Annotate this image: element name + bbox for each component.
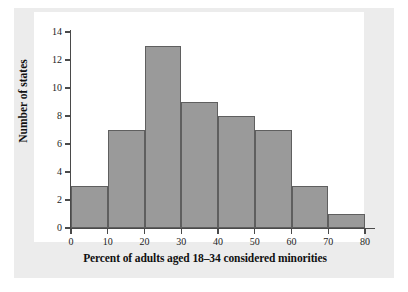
x-axis-tick-label: 20	[132, 236, 158, 247]
y-axis-tick	[65, 31, 70, 32]
y-axis-tick-label: 12	[42, 55, 62, 65]
y-axis-tick-label: 0	[42, 223, 62, 233]
x-axis-tick-label: 0	[58, 236, 84, 247]
x-axis-tick	[107, 229, 108, 234]
x-axis-tick	[181, 229, 182, 234]
x-axis-tick	[217, 229, 218, 234]
y-axis-tick	[65, 87, 70, 88]
y-axis-tick-label: 8	[42, 111, 62, 121]
x-axis-tick	[70, 229, 71, 234]
x-axis-tick-label: 40	[205, 236, 231, 247]
x-axis-tick	[291, 229, 292, 234]
y-axis-title: Number of states	[17, 46, 29, 156]
y-axis-tick	[65, 199, 70, 200]
y-axis-tick	[65, 227, 70, 228]
y-axis-tick-label: 14	[42, 27, 62, 37]
x-axis-tick-label: 70	[315, 236, 341, 247]
x-axis-tick-label: 10	[95, 236, 121, 247]
y-axis-tick-label: 10	[42, 83, 62, 93]
histogram-bar	[255, 130, 292, 228]
x-axis-tick-label: 30	[168, 236, 194, 247]
histogram-bar	[71, 186, 108, 228]
histogram-bar	[108, 130, 145, 228]
y-axis-tick	[65, 143, 70, 144]
x-axis-tick	[144, 229, 145, 234]
x-axis-tick-label: 50	[242, 236, 268, 247]
histogram-bar	[328, 214, 365, 228]
y-axis-tick-label: 2	[42, 195, 62, 205]
x-axis-tick	[328, 229, 329, 234]
histogram-bar	[145, 46, 182, 228]
y-axis-tick	[65, 115, 70, 116]
y-axis-tick-label: 4	[42, 167, 62, 177]
x-axis-tick	[364, 229, 365, 234]
y-axis-tick	[65, 59, 70, 60]
histogram-bar	[181, 102, 218, 228]
x-axis-title: Percent of adults aged 18–34 considered …	[40, 252, 370, 264]
x-axis-tick-label: 60	[279, 236, 305, 247]
y-axis-tick	[65, 171, 70, 172]
histogram-bar	[218, 116, 255, 228]
histogram-bar	[292, 186, 329, 228]
y-axis-tick-label: 6	[42, 139, 62, 149]
histogram-axes: 02468101214 01020304050607080 Percent of…	[0, 0, 408, 292]
x-axis-tick-label: 80	[352, 236, 378, 247]
x-axis-tick	[254, 229, 255, 234]
